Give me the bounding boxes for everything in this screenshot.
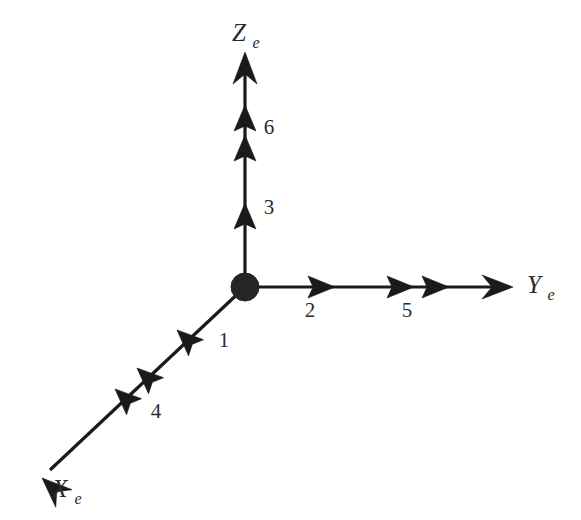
y-axis-label: Y e bbox=[527, 271, 555, 303]
x-axis-label-base: X bbox=[51, 475, 69, 502]
x-arrowhead-1 bbox=[169, 322, 203, 356]
y-axis-label-base: Y bbox=[527, 271, 544, 298]
label-3: 3 bbox=[264, 195, 275, 219]
diagram-canvas: 1 4 2 5 3 6 X e Y e Z e bbox=[0, 0, 581, 520]
label-4: 4 bbox=[151, 399, 162, 423]
sequence-labels-group: 1 4 2 5 3 6 bbox=[151, 115, 413, 423]
z-axis-label-subscript: e bbox=[252, 34, 259, 51]
label-2: 2 bbox=[305, 298, 316, 322]
y-axis-label-subscript: e bbox=[547, 286, 554, 303]
origin-marker bbox=[231, 273, 259, 301]
label-5: 5 bbox=[402, 298, 413, 322]
x-axis-label-subscript: e bbox=[74, 490, 81, 507]
z-axis-label: Z e bbox=[232, 19, 260, 51]
axes-diagram: 1 4 2 5 3 6 X e Y e Z e bbox=[0, 0, 581, 520]
label-1: 1 bbox=[219, 328, 230, 352]
axis-labels-group: X e Y e Z e bbox=[51, 19, 554, 507]
label-6: 6 bbox=[264, 115, 275, 139]
z-axis-label-base: Z bbox=[232, 19, 247, 46]
axis-lines-group bbox=[50, 60, 505, 470]
